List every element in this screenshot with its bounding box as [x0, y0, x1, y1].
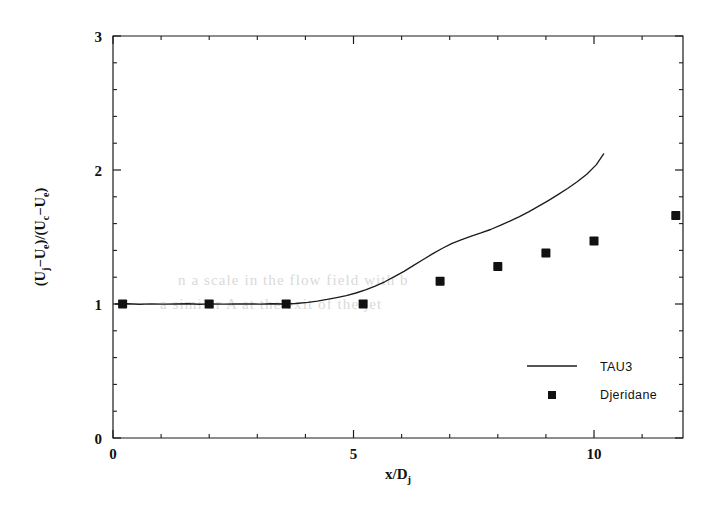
series-line-tau3: [115, 154, 603, 304]
y-tick-label: 2: [95, 163, 103, 179]
x-tick-label: 10: [587, 446, 602, 462]
data-marker: [493, 262, 502, 271]
y-tick-label: 3: [95, 29, 103, 45]
series-tau3: [115, 154, 603, 304]
data-marker: [359, 300, 368, 309]
x-axis-ticks: [113, 36, 642, 438]
chart-legend: TAU3 Djeridane: [527, 360, 657, 402]
data-marker: [671, 211, 680, 220]
y-axis-tick-labels: 0123: [95, 29, 103, 447]
data-marker: [590, 237, 599, 246]
svg-text:(Uj −Ue )/(Uc −Ue ): (Uj −Ue )/(Uc −Ue ): [32, 188, 51, 287]
chart-plot: 0123 0510 x/Dj (Uj −Ue )/(Uc −Ue ) TAU3 …: [0, 0, 716, 505]
x-tick-label: 5: [350, 446, 358, 462]
legend-swatch-square: [548, 391, 556, 399]
data-marker: [541, 249, 550, 258]
x-tick-label: 0: [109, 446, 117, 462]
data-marker: [436, 277, 445, 286]
legend-label-tau3: TAU3: [600, 360, 633, 374]
data-marker: [282, 300, 291, 309]
x-axis-title: x/Dj: [385, 466, 411, 485]
data-marker: [205, 300, 214, 309]
series-djeridane: [118, 211, 680, 308]
svg-text:x/Dj: x/Dj: [385, 466, 411, 485]
y-tick-label: 1: [95, 297, 103, 313]
figure-canvas: n a scale in the flow field with b a sim…: [0, 0, 716, 505]
y-tick-label: 0: [95, 431, 103, 447]
legend-label-djeridane: Djeridane: [600, 388, 657, 402]
y-axis-title: (Uj −Ue )/(Uc −Ue ): [32, 188, 51, 287]
data-marker: [118, 300, 127, 309]
x-axis-tick-labels: 0510: [109, 446, 601, 462]
